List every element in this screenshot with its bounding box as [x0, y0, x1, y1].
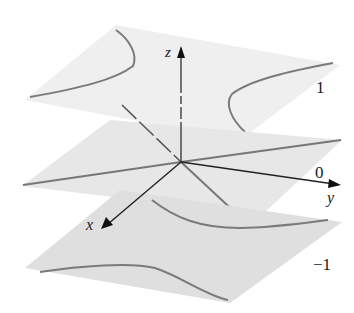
z-axis-label: z — [164, 44, 171, 60]
x-axis-label: x — [85, 216, 93, 233]
saddle-level-curves-diagram: z y x 1 0 −1 — [0, 0, 354, 313]
level-label-1: 1 — [316, 78, 325, 97]
y-axis-label: y — [325, 189, 335, 207]
plane-bottom-surface — [25, 190, 342, 303]
level-label-0: 0 — [315, 163, 324, 182]
plane-z-minus-1 — [25, 190, 342, 303]
plane-z-1 — [25, 25, 340, 140]
level-label-minus-1: −1 — [313, 255, 331, 274]
plane-top-surface — [25, 25, 340, 140]
y-axis-arrowhead-icon — [328, 179, 341, 188]
